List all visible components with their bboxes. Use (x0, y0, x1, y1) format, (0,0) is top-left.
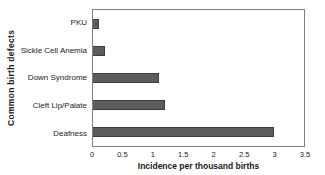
x-axis-title: Incidence per thousand births (92, 161, 305, 171)
bar (93, 100, 165, 110)
bar-slot (93, 64, 304, 91)
category-label: PKU (0, 9, 87, 37)
category-label: Cleft Lip/Palate (0, 92, 87, 120)
bar-slot (93, 37, 304, 64)
category-label: Deafness (0, 119, 87, 147)
x-tick-label: 1.5 (178, 150, 188, 159)
x-tick-label: 0.5 (117, 150, 127, 159)
category-label: Down Syndrome (0, 64, 87, 92)
bar (93, 127, 274, 137)
x-axis-ticks: 00.511.522.533.5 (92, 150, 305, 160)
x-tick-label: 1 (151, 150, 155, 159)
bar (93, 73, 159, 83)
bar-slot (93, 119, 304, 146)
x-tick-label: 3 (272, 150, 276, 159)
bar (93, 46, 105, 56)
plot-area (92, 9, 305, 147)
x-tick-label: 3.5 (300, 150, 310, 159)
bar-slot (93, 10, 304, 37)
x-tick-label: 2.5 (239, 150, 249, 159)
bar-slot (93, 92, 304, 119)
x-tick-label: 2 (212, 150, 216, 159)
bar-chart: Common birth defects PKUSickle Cell Anem… (0, 0, 325, 175)
category-label: Sickle Cell Anemia (0, 37, 87, 65)
x-tick-label: 0 (90, 150, 94, 159)
category-labels: PKUSickle Cell AnemiaDown SyndromeCleft … (0, 9, 87, 147)
bar (93, 19, 99, 29)
